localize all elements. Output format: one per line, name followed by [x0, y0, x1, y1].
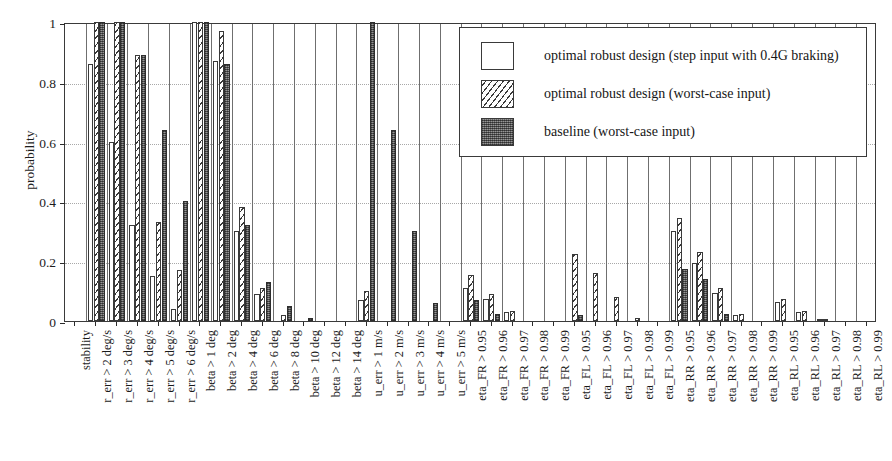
bar-group: [419, 24, 440, 321]
bar: [677, 218, 682, 321]
x-axis-tick: [158, 322, 159, 326]
x-axis-tick: [845, 322, 846, 326]
x-axis-tick: [512, 322, 513, 326]
y-axis-tick: [60, 144, 65, 145]
x-axis-tick: [637, 322, 638, 326]
bar: [370, 22, 375, 321]
bar: [724, 314, 729, 321]
x-axis-tick-label: eta_RL > 0.96: [808, 330, 823, 401]
legend-item-1: optimal robust design (worst-case input): [481, 80, 770, 108]
x-axis-tick: [449, 322, 450, 326]
bar: [483, 299, 488, 321]
x-axis-tick-label: u_err > 1 m/s: [371, 330, 386, 397]
bar-group: [294, 24, 315, 321]
bar: [245, 225, 250, 321]
x-axis-tick: [741, 322, 742, 326]
x-axis-tick-label: eta_RR > 0.95: [683, 330, 698, 402]
bar: [733, 315, 738, 321]
legend-label-1: optimal robust design (worst-case input): [544, 86, 770, 102]
y-axis-tick: [60, 263, 65, 264]
x-axis-tick: [657, 322, 658, 326]
x-axis-tick: [616, 322, 617, 326]
legend-item-2: baseline (worst-case input): [481, 118, 695, 146]
bar: [775, 302, 780, 321]
bar: [593, 273, 598, 321]
bar: [614, 297, 619, 321]
bar: [88, 64, 93, 321]
bar: [463, 288, 468, 321]
bar: [504, 312, 509, 321]
x-axis-tick: [866, 322, 867, 326]
x-axis-tick-label: eta_FR > 0.95: [475, 330, 490, 401]
y-axis-tick-label: 0.2: [39, 256, 56, 270]
y-axis-tick: [60, 24, 65, 25]
x-axis-tick-label: eta_RR > 0.96: [704, 330, 719, 402]
y-axis-tick-label: 0.6: [39, 137, 56, 151]
x-axis-tick: [95, 322, 96, 326]
y-axis-label: probability: [22, 60, 38, 260]
x-axis-tick: [574, 322, 575, 326]
x-axis-tick: [491, 322, 492, 326]
x-axis-tick-label: beta > 10 deg: [308, 330, 323, 397]
bar-group: [398, 24, 419, 321]
bar: [141, 55, 146, 321]
bar: [703, 279, 708, 321]
x-axis-tick: [553, 322, 554, 326]
x-axis-tick: [262, 322, 263, 326]
bar: [364, 291, 369, 321]
x-axis-tick-label: u_err > 4 m/s: [433, 330, 448, 397]
x-axis-tick-label: eta_FR > 0.98: [537, 330, 552, 401]
x-axis-tick-label: r_err > 6 deg/s: [184, 330, 199, 403]
bar: [150, 276, 155, 321]
x-axis-tick-label: u_err > 2 m/s: [392, 330, 407, 397]
x-axis-tick: [532, 322, 533, 326]
x-axis-tick: [470, 322, 471, 326]
x-axis-tick: [366, 322, 367, 326]
x-axis-tick: [179, 322, 180, 326]
bar: [219, 31, 224, 321]
x-axis-tick-label: eta_RR > 0.99: [766, 330, 781, 402]
bar: [224, 64, 229, 321]
bar: [712, 293, 717, 321]
bar: [358, 300, 363, 321]
x-axis-tick-labels: stabilityr_err > 2 deg/sr_err > 3 deg/sr…: [64, 322, 876, 461]
y-axis-tick-label: 0.4: [39, 197, 56, 211]
bar: [781, 299, 786, 321]
x-axis-tick: [595, 322, 596, 326]
bar-group: [336, 24, 357, 321]
x-axis-tick-label: r_err > 2 deg/s: [100, 330, 115, 403]
legend-label-2: baseline (worst-case input): [544, 124, 695, 140]
legend: optimal robust design (step input with 0…: [459, 27, 867, 157]
x-axis-tick: [699, 322, 700, 326]
x-axis-tick: [678, 322, 679, 326]
bar: [578, 315, 583, 321]
bar: [171, 309, 176, 321]
x-axis-tick: [428, 322, 429, 326]
x-axis-tick-label: r_err > 4 deg/s: [142, 330, 157, 403]
x-axis-tick-label: beta > 2 deg: [225, 330, 240, 391]
bar: [213, 61, 218, 321]
y-axis-tick-label: 0: [49, 316, 56, 330]
bar: [177, 270, 182, 321]
x-axis-tick: [220, 322, 221, 326]
bar: [183, 201, 188, 321]
x-axis-tick: [324, 322, 325, 326]
bar: [802, 311, 807, 321]
bar: [671, 231, 676, 321]
bar: [697, 252, 702, 321]
y-axis-tick-label: 1: [49, 17, 56, 31]
x-axis-tick-label: eta_RL > 0.97: [829, 330, 844, 401]
bar-group: [169, 24, 190, 321]
y-axis-tick: [60, 203, 65, 204]
x-axis-tick: [137, 322, 138, 326]
bar-group: [86, 24, 107, 321]
legend-label-0: optimal robust design (step input with 0…: [544, 48, 839, 64]
x-axis-tick: [720, 322, 721, 326]
x-axis-tick-label: beta > 8 deg: [288, 330, 303, 391]
x-axis-tick-label: beta > 14 deg: [350, 330, 365, 397]
bar-chart-figure: probability 00.20.40.60.81 stabilityr_er…: [0, 0, 892, 461]
x-axis-tick-label: eta_FL > 0.96: [600, 330, 615, 400]
bar-group: [440, 24, 461, 321]
bar: [682, 269, 687, 321]
x-axis-tick-label: r_err > 5 deg/s: [163, 330, 178, 403]
